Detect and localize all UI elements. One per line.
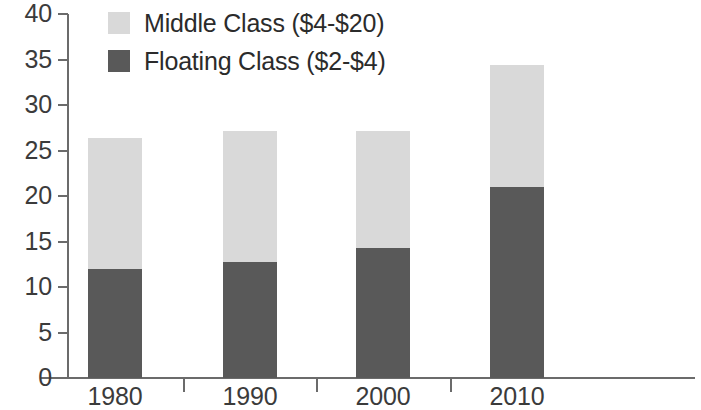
legend-item-floating-class: Floating Class ($2-$4) <box>108 42 386 80</box>
y-axis-tick <box>58 332 68 334</box>
x-axis-tick <box>450 379 452 392</box>
x-axis-label-2000: 2000 <box>323 384 443 409</box>
x-axis-tick <box>183 379 185 392</box>
y-axis-tick-label: 10 <box>6 274 52 299</box>
bar-segment-middle-class-2010 <box>490 65 544 187</box>
y-axis-tick-label: 25 <box>6 138 52 163</box>
y-axis-tick <box>58 150 68 152</box>
x-axis-tick <box>316 379 318 392</box>
y-axis-tick-label: 20 <box>6 183 52 208</box>
bar-segment-middle-class-1980 <box>88 138 142 269</box>
stacked-bar-chart: 0510152025303540 1980199020002010 Middle… <box>0 0 701 410</box>
y-axis-tick-label: 35 <box>6 47 52 72</box>
bar-segment-floating-class-2010 <box>490 187 544 378</box>
y-axis-tick <box>58 104 68 106</box>
x-axis-label-1990: 1990 <box>190 384 310 409</box>
bar-segment-middle-class-1990 <box>223 131 277 261</box>
y-axis-tick <box>58 241 68 243</box>
y-axis-tick <box>58 377 68 379</box>
bar-segment-floating-class-1990 <box>223 262 277 378</box>
y-axis-tick <box>58 286 68 288</box>
legend-swatch-middle-class-icon <box>108 12 130 34</box>
bar-segment-floating-class-2000 <box>356 248 410 378</box>
y-axis-tick <box>58 59 68 61</box>
y-axis-tick-label: 15 <box>6 229 52 254</box>
y-axis-tick-label: 5 <box>6 320 52 345</box>
legend-item-middle-class: Middle Class ($4-$20) <box>108 4 386 42</box>
bar-2010 <box>490 65 544 378</box>
y-axis-tick <box>58 195 68 197</box>
y-axis-tick <box>58 13 68 15</box>
x-axis-label-2010: 2010 <box>457 384 577 409</box>
legend-label-floating-class: Floating Class ($2-$4) <box>144 49 386 74</box>
bar-1980 <box>88 138 142 378</box>
bar-2000 <box>356 130 410 378</box>
bar-1990 <box>223 131 277 378</box>
legend-swatch-floating-class-icon <box>108 50 130 72</box>
y-axis-tick-label: 40 <box>6 1 52 26</box>
y-axis-tick-label: 30 <box>6 92 52 117</box>
y-axis-tick-label: 0 <box>6 365 52 390</box>
bar-segment-floating-class-1980 <box>88 269 142 378</box>
legend-label-middle-class: Middle Class ($4-$20) <box>144 11 384 36</box>
x-axis-label-1980: 1980 <box>55 384 175 409</box>
bar-segment-middle-class-2000 <box>356 131 410 248</box>
chart-legend: Middle Class ($4-$20) Floating Class ($2… <box>108 4 386 80</box>
